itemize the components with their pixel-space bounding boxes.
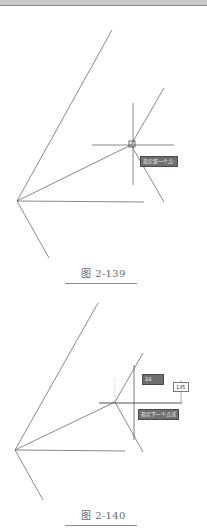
cad-drawing-1 — [0, 0, 207, 290]
dynamic-angle-input[interactable]: 135 — [173, 382, 189, 392]
dynamic-length-input[interactable]: 24 — [142, 374, 164, 385]
figure-2-140: 24 135 指定下一个点或 图 2-140 — [0, 290, 207, 532]
figure-2-139: 指定第一个点: 图 2-139 — [0, 0, 207, 290]
caption-underline — [65, 283, 137, 284]
caption-underline — [65, 525, 137, 526]
cad-tooltip-next-point: 指定下一个点或 — [138, 409, 179, 420]
figure-caption: 图 2-139 — [0, 265, 207, 280]
figure-caption: 图 2-140 — [0, 507, 207, 522]
cad-tooltip-first-point: 指定第一个点: — [140, 156, 178, 167]
